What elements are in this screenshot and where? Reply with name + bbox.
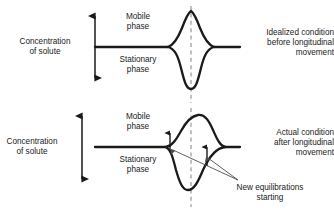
new-equilibrations-annotation: New equilibrations starting [218,183,322,203]
bottom-stationary-phase-label: Stationary phase [107,155,169,175]
bottom-mobile-phase-label: Mobile phase [107,112,169,132]
annotation-leader-lines [173,150,238,180]
top-mobile-phase-label: Mobile phase [107,12,169,32]
top-axis-label: Concentration of solute [2,37,88,57]
bottom-condition-label: Actual condition after longitudinal move… [242,128,334,159]
bottom-axis-label: Concentration of solute [0,137,75,157]
top-stationary-phase-label: Stationary phase [107,55,169,75]
chromatography-diagram: Concentration of solute Mobile phase Sta… [0,0,334,219]
top-condition-label: Idealized condition before longitudinal … [242,28,334,59]
